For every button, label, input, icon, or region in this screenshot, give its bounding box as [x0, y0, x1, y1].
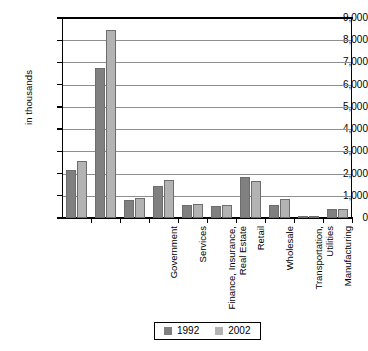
legend-label: 2002: [228, 326, 250, 336]
x-axis-category-label: Services: [198, 226, 209, 322]
x-axis-tick-mark: [352, 218, 353, 223]
bar-group: [124, 18, 146, 218]
bar-series-layer: [62, 18, 352, 218]
bar-2002: [77, 161, 88, 218]
bar-1992: [269, 205, 280, 218]
x-axis-tick-mark: [294, 218, 295, 223]
x-axis-category-label: Government: [169, 226, 180, 322]
x-axis-tick-mark: [265, 218, 266, 223]
bar-1992: [124, 200, 135, 218]
bar-group: [327, 18, 349, 218]
bar-group: [66, 18, 88, 218]
legend-label: 1992: [177, 326, 199, 336]
bar-2002: [135, 198, 146, 218]
bar-group: [269, 18, 291, 218]
x-axis-tick-mark: [120, 218, 121, 223]
bar-2002: [193, 204, 204, 218]
bar-1992: [327, 209, 338, 218]
bar-chart: in thousands 9,0008,0007,0006,0005,0004,…: [0, 0, 368, 351]
x-axis-category-label: Wholesale: [285, 226, 296, 322]
bar-group: [153, 18, 175, 218]
x-axis-tick-mark: [207, 218, 208, 223]
x-axis-tick-mark: [178, 218, 179, 223]
bar-2002: [251, 181, 262, 218]
bar-group: [211, 18, 233, 218]
x-axis-tick-mark: [91, 218, 92, 223]
x-axis-category-label: Retail: [256, 226, 267, 322]
y-axis-title: in thousands: [23, 38, 34, 158]
bar-1992: [153, 186, 164, 218]
legend-item: 2002: [215, 326, 250, 336]
x-axis-category-label: Manufacturing: [343, 226, 354, 322]
bar-group: [95, 18, 117, 218]
x-axis-category-label: Finance, Insurance, Real Estate: [227, 226, 248, 322]
bar-1992: [66, 170, 77, 218]
chart-legend: 19922002: [154, 322, 261, 340]
bar-group: [240, 18, 262, 218]
bar-group: [182, 18, 204, 218]
bar-2002: [280, 199, 291, 218]
bar-1992: [298, 216, 309, 218]
bar-1992: [211, 206, 222, 218]
bar-2002: [222, 205, 233, 218]
bar-2002: [338, 209, 349, 218]
bar-1992: [240, 177, 251, 218]
bar-1992: [182, 205, 193, 218]
legend-item: 1992: [164, 326, 199, 336]
x-axis-tick-mark: [236, 218, 237, 223]
legend-swatch-icon: [215, 327, 223, 335]
x-axis-tick-mark: [323, 218, 324, 223]
bar-2002: [106, 30, 117, 218]
bar-2002: [309, 216, 320, 218]
x-axis-tick-mark: [149, 218, 150, 223]
x-axis-category-label: Transportation, Utilities: [314, 226, 335, 322]
bar-2002: [164, 180, 175, 218]
bar-1992: [95, 68, 106, 218]
legend-swatch-icon: [164, 327, 172, 335]
bar-group: [298, 18, 320, 218]
